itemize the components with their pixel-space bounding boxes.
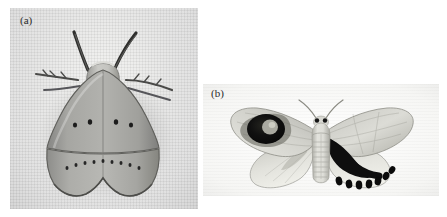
eyespot-highlight	[269, 122, 276, 128]
moth-resting-illustration	[10, 8, 198, 209]
moth-display-illustration	[203, 84, 439, 196]
leg-left-front	[36, 70, 78, 80]
panel-b-image: (b)	[203, 84, 439, 196]
panel-a-label: (a)	[20, 14, 32, 26]
antenna-left	[299, 100, 316, 118]
antenna-right	[326, 100, 343, 118]
eye-right	[323, 118, 327, 122]
panel-a-image: (a)	[10, 8, 198, 209]
antenna-left	[74, 32, 88, 70]
figure-container: (a)	[0, 0, 447, 217]
panel-b-label: (b)	[211, 87, 224, 99]
antenna-right	[115, 33, 136, 68]
eye-left	[315, 118, 319, 122]
